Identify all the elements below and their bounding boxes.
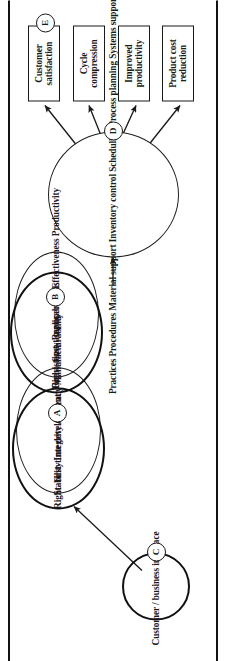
- support-item-process-planning: Process planning: [108, 61, 118, 127]
- operations-attribute-productivity: Productivity: [51, 187, 61, 235]
- arrow-interface-to-development: [74, 506, 142, 570]
- support-ellipse-label: Practices Procedures Material support In…: [108, 0, 119, 394]
- interface-label-line1: Customer /: [151, 602, 161, 645]
- development-label-line1: Right-: [53, 484, 63, 509]
- outcome-box-improved-productivity[interactable]: Improved productivity: [118, 25, 150, 101]
- badge-c: C: [147, 542, 166, 561]
- interface-label-line2: business: [151, 567, 161, 599]
- outcome-label-line1: Customer: [34, 41, 44, 85]
- badge-a-label: A: [53, 409, 62, 416]
- support-item-procedures: Procedures: [108, 312, 118, 356]
- badge-b-label: B: [51, 293, 60, 299]
- badge-e-label: E: [41, 19, 50, 25]
- support-ellipse[interactable]: Practices Procedures Material support In…: [48, 131, 179, 257]
- outcome-label-line2: satisfaction: [44, 41, 54, 85]
- outcome-label-line2: compression: [89, 39, 99, 87]
- badge-d-label: D: [109, 127, 118, 134]
- badge-b: B: [46, 287, 65, 306]
- rotated-diagram-stage: Product cost reduction Improved producti…: [0, 0, 230, 661]
- outcome-label-line1: Improved: [124, 39, 134, 87]
- outcome-box-product-cost[interactable]: Product cost reduction: [162, 25, 194, 101]
- support-item-systems-support: Systems support: [108, 0, 118, 58]
- development-label-line2: first-time: [53, 445, 63, 481]
- operations-label-line2: first-time: [51, 325, 61, 361]
- support-item-practices: Practices: [108, 358, 118, 393]
- outcome-box-cycle-compression[interactable]: Cycle compression: [73, 25, 105, 101]
- badge-d: D: [104, 121, 123, 140]
- badge-a: A: [48, 403, 67, 422]
- badge-c-label: C: [152, 548, 161, 555]
- outcome-box-customer-satisfaction[interactable]: Customer satisfaction: [28, 25, 60, 101]
- customer-business-interface-circle[interactable]: Customer / business interface: [122, 552, 190, 620]
- outcome-label-line2: productivity: [134, 39, 144, 87]
- outcome-label-line2: reduction: [178, 39, 188, 87]
- outcome-label-line1: Cycle: [79, 39, 89, 87]
- badge-e: E: [36, 13, 55, 32]
- figure-root: Product cost reduction Improved producti…: [0, 0, 230, 661]
- support-item-inventory-control: Inventory control: [108, 174, 118, 242]
- operations-label-line1: Right-: [51, 363, 61, 388]
- outcome-label-line1: Product cost: [168, 39, 178, 87]
- support-item-material-support: Material support: [108, 244, 118, 310]
